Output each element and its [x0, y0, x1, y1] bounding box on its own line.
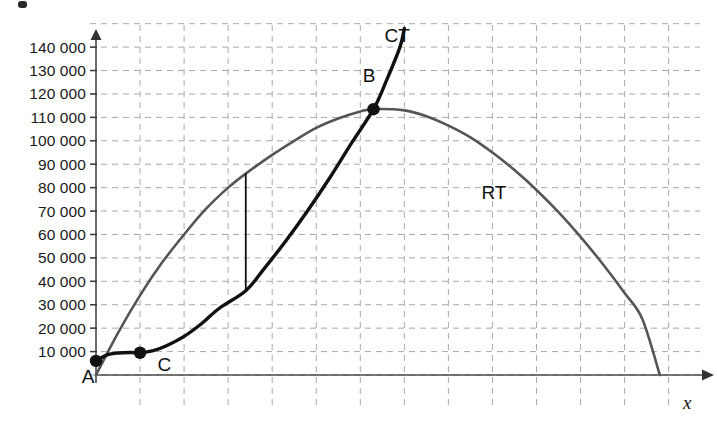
point-b-marker — [367, 103, 379, 115]
y-tick-label: 70 000 — [38, 203, 86, 220]
curve-name-labels: RTCT — [385, 25, 507, 203]
point-a-label: A — [82, 366, 95, 387]
curve-label-ct: CT — [385, 25, 411, 46]
y-tick-label: 50 000 — [38, 249, 86, 266]
y-axis-arrowhead — [91, 29, 102, 40]
horizontal-gridlines — [90, 24, 700, 375]
point-c-label: C — [157, 354, 171, 375]
y-tick-label: 10 000 — [38, 343, 86, 360]
y-tick-label: 140 000 — [29, 39, 86, 56]
y-tick-label: 40 000 — [38, 273, 86, 290]
curve-ct — [96, 28, 404, 361]
y-axis-tick-labels: 10 00020 00030 00040 00050 00060 00070 0… — [29, 39, 86, 360]
vertical-gridlines — [140, 25, 669, 408]
y-tick-label: 130 000 — [29, 62, 86, 79]
point-c-marker — [134, 347, 146, 359]
economics-cost-revenue-chart: 10 00020 00030 00040 00050 00060 00070 0… — [0, 0, 717, 435]
y-tick-label: 90 000 — [38, 156, 86, 173]
curve-rt — [96, 109, 660, 375]
annotation-markers — [90, 103, 380, 367]
y-tick-label: 20 000 — [38, 320, 86, 337]
y-tick-label: 80 000 — [38, 179, 86, 196]
y-tick-label: 30 000 — [38, 296, 86, 313]
y-tick-label: 110 000 — [30, 109, 86, 126]
curve-label-rt: RT — [481, 182, 506, 203]
point-b-label: B — [363, 65, 376, 86]
y-tick-label: 60 000 — [38, 226, 86, 243]
y-tick-label: 120 000 — [29, 85, 86, 102]
y-tick-label: 100 000 — [29, 132, 86, 149]
corner-speck-artifact — [18, 1, 27, 8]
x-axis-label: x — [682, 392, 692, 413]
chart-canvas: 10 00020 00030 00040 00050 00060 00070 0… — [0, 0, 717, 435]
x-axis-arrowhead — [702, 370, 714, 381]
